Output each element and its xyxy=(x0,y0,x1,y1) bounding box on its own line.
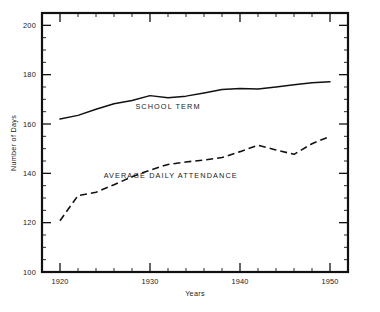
line-chart: 1001201401601802001920193019401950 SCHOO… xyxy=(0,0,380,312)
series-label-average-daily-attendance: AVERAGE DAILY ATTENDANCE xyxy=(104,171,238,180)
y-tick-label: 200 xyxy=(23,21,36,30)
series-annotations-layer: SCHOOL TERMAVERAGE DAILY ATTENDANCE xyxy=(104,102,238,181)
chart-figure: 1001201401601802001920193019401950 SCHOO… xyxy=(0,0,380,312)
y-tick-label: 160 xyxy=(23,120,36,129)
x-tick-label: 1920 xyxy=(51,277,68,286)
series-label-school-term: SCHOOL TERM xyxy=(135,102,200,111)
y-axis-title: Number of Days xyxy=(9,115,18,171)
x-tick-label: 1940 xyxy=(231,277,248,286)
y-tick-label: 100 xyxy=(23,268,36,277)
y-tick-label: 180 xyxy=(23,70,36,79)
plot-frame xyxy=(42,13,348,272)
series-line-school-term xyxy=(60,82,330,119)
x-tick-label: 1950 xyxy=(321,277,338,286)
axis-ticks xyxy=(42,13,348,272)
y-tick-label: 120 xyxy=(23,218,36,227)
x-axis-title: Years xyxy=(185,289,205,298)
x-tick-label: 1930 xyxy=(141,277,158,286)
y-tick-label: 140 xyxy=(23,169,36,178)
